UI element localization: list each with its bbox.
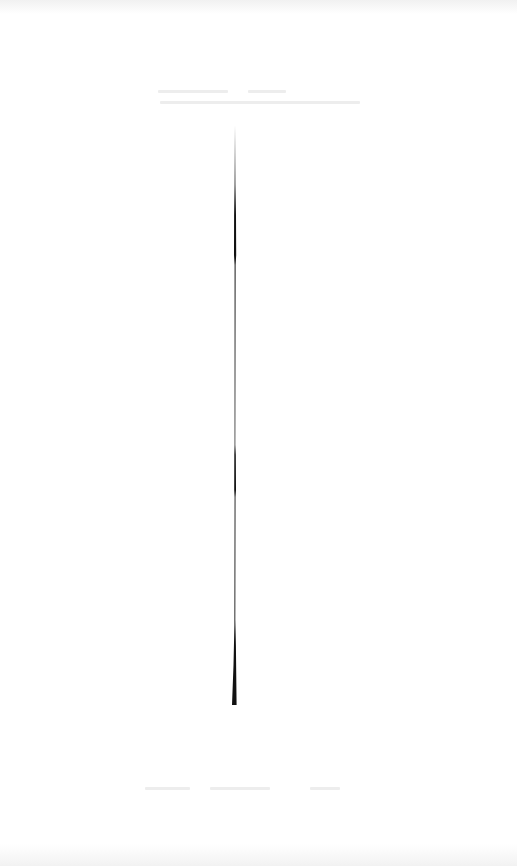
faint-text-line: [248, 90, 286, 93]
faint-text-line: [158, 90, 228, 93]
vertical-brush-stroke: [232, 125, 238, 705]
bottom-edge-fade: [0, 844, 517, 866]
top-edge-fade: [0, 0, 517, 14]
faint-text-line: [145, 787, 190, 790]
faint-text-line: [310, 787, 340, 790]
faint-text-line: [210, 787, 270, 790]
faint-text-line: [160, 101, 360, 104]
